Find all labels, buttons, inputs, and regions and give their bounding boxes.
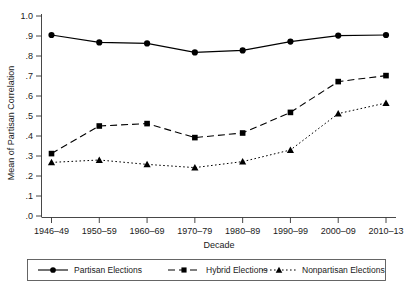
y-tick-label: .6 xyxy=(25,91,33,101)
data-point-square xyxy=(240,130,246,136)
legend-label: Nonpartisan Elections xyxy=(302,265,385,275)
data-point-circle xyxy=(96,39,102,45)
x-tick-label: 1946–49 xyxy=(34,226,69,236)
x-axis-title-text: Decade xyxy=(203,240,234,250)
y-tick-label: 1.0 xyxy=(20,11,33,21)
y-tick-label: .7 xyxy=(25,71,33,81)
data-point-square xyxy=(144,121,150,127)
legend-items: Partisan ElectionsHybrid ElectionsNonpar… xyxy=(38,265,385,275)
x-tick-label: 1980–89 xyxy=(225,226,260,236)
x-axis-title: Decade xyxy=(203,240,234,250)
data-point-circle xyxy=(144,40,150,46)
data-point-circle xyxy=(383,32,389,38)
data-point-circle xyxy=(287,39,293,45)
legend-label: Partisan Elections xyxy=(74,265,142,275)
x-tick-label: 2000–09 xyxy=(321,226,356,236)
data-point-square xyxy=(192,135,198,141)
x-tick-label: 1950–59 xyxy=(82,226,117,236)
y-tick-label: .3 xyxy=(25,151,33,161)
y-tick-label: .8 xyxy=(25,51,33,61)
data-point-square xyxy=(335,79,341,85)
y-tick-label: .0 xyxy=(25,211,33,221)
x-tick-label: 1960–69 xyxy=(130,226,165,236)
y-tick-label: .5 xyxy=(25,111,33,121)
y-axis-title: Mean of Partisan Correlation xyxy=(6,66,16,181)
data-point-circle xyxy=(50,267,56,273)
data-point-square xyxy=(96,123,102,129)
data-point-circle xyxy=(48,32,54,38)
y-tick-label: .2 xyxy=(25,171,33,181)
partisan-correlation-line-chart: Mean of Partisan Correlation 1.0.9.8.7.6… xyxy=(0,0,408,286)
data-point-circle xyxy=(240,47,246,53)
legend-label: Hybrid Elections xyxy=(206,265,267,275)
data-point-square xyxy=(288,110,294,116)
data-point-square xyxy=(49,151,55,157)
x-tick-label: 2010–13 xyxy=(368,226,403,236)
y-axis-title-text: Mean of Partisan Correlation xyxy=(6,66,16,181)
data-point-circle xyxy=(335,33,341,39)
chart-legend: Partisan ElectionsHybrid ElectionsNonpar… xyxy=(28,260,386,281)
data-point-circle xyxy=(192,49,198,55)
data-point-square xyxy=(181,267,186,272)
x-tick-label: 1990–99 xyxy=(273,226,308,236)
y-tick-label: .4 xyxy=(25,131,33,141)
data-point-square xyxy=(383,73,389,79)
y-tick-label: .9 xyxy=(25,31,33,41)
x-tick-label: 1970–79 xyxy=(177,226,212,236)
y-tick-label: .1 xyxy=(25,191,33,201)
